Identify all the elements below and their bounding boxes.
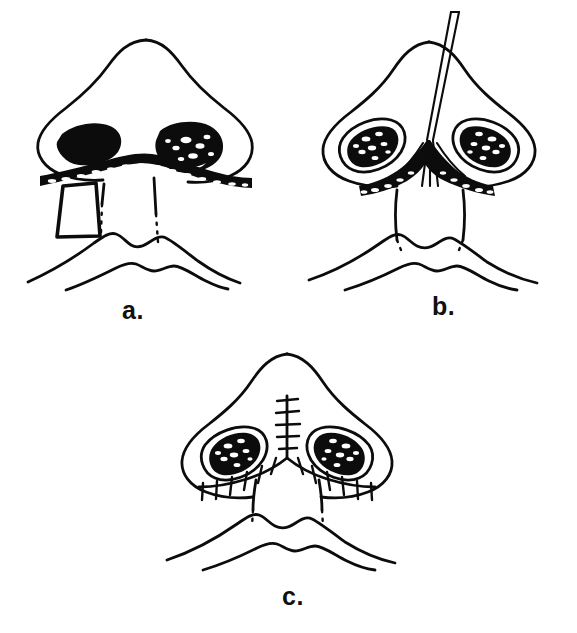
panel-b	[287, 0, 577, 300]
panel-c	[143, 340, 433, 590]
panel-b-lower-lip	[345, 263, 517, 290]
panel-b-upper-lip	[309, 234, 537, 283]
panel-b-left-nostril	[339, 119, 405, 172]
panel-c-lower-lip	[203, 543, 375, 570]
panel-a-columella-outline	[101, 178, 158, 242]
panel-label-b: b.	[432, 294, 455, 319]
panel-c-right-nostril	[307, 427, 373, 480]
panel-b-columella-outline	[396, 190, 465, 250]
panel-label-a: a.	[122, 298, 144, 323]
panel-c-vertical-suture-line	[276, 396, 300, 458]
panel-label-c: c.	[282, 584, 304, 609]
panel-a	[0, 0, 290, 300]
figure-root: a. b. c.	[0, 0, 577, 633]
panel-c-left-nostril	[201, 427, 267, 480]
panel-a-lower-lip	[66, 263, 228, 290]
panel-a-retractor-flap	[57, 183, 100, 237]
panel-a-upper-lip	[28, 233, 240, 283]
panel-c-upper-lip	[167, 514, 395, 563]
panel-b-needle-instrument	[427, 12, 459, 140]
panel-b-right-nostril	[453, 119, 519, 172]
